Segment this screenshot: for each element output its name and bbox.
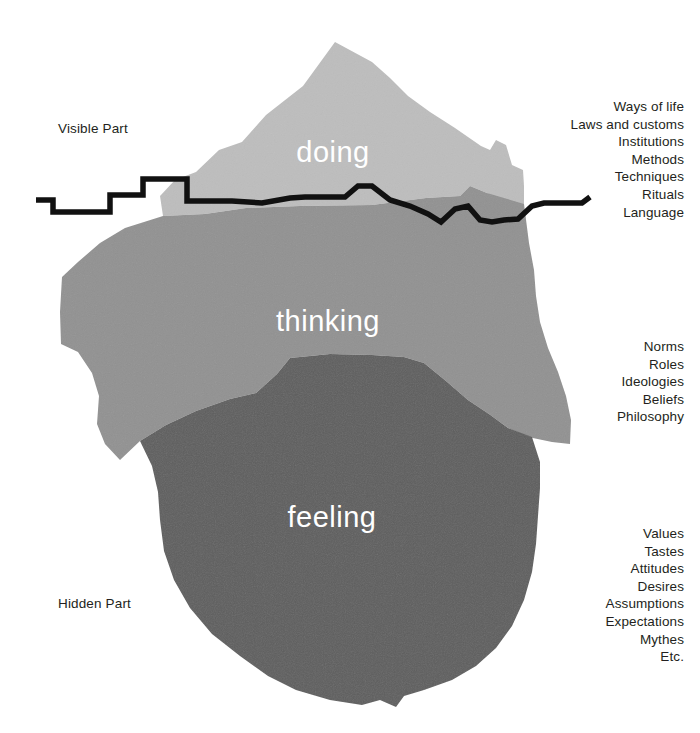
term-item: Roles: [617, 356, 684, 374]
layer-label-thinking: thinking: [276, 305, 380, 337]
term-item: Ways of life: [571, 98, 684, 116]
iceberg-diagram: doing thinking feeling Visible Part Hidd…: [0, 0, 700, 733]
term-item: Tastes: [606, 543, 685, 561]
term-item: Ideologies: [617, 373, 684, 391]
term-item: Desires: [606, 578, 685, 596]
term-item: Norms: [617, 338, 684, 356]
term-item: Philosophy: [617, 408, 684, 426]
term-item: Values: [606, 525, 685, 543]
term-item: Expectations: [606, 613, 685, 631]
term-item: Etc.: [606, 648, 685, 666]
term-item: Attitudes: [606, 560, 685, 578]
visible-part-label: Visible Part: [58, 121, 128, 136]
term-item: Language: [571, 204, 684, 222]
layer-label-doing: doing: [296, 136, 369, 168]
term-item: Assumptions: [606, 595, 685, 613]
term-item: Rituals: [571, 186, 684, 204]
term-item: Institutions: [571, 133, 684, 151]
term-item: Methods: [571, 151, 684, 169]
term-list-doing: Ways of life Laws and customs Institutio…: [571, 98, 684, 221]
layer-label-feeling: feeling: [288, 501, 377, 533]
term-item: Laws and customs: [571, 116, 684, 134]
term-item: Mythes: [606, 631, 685, 649]
hidden-part-label: Hidden Part: [58, 596, 131, 611]
term-list-feeling: Values Tastes Attitudes Desires Assumpti…: [606, 525, 685, 666]
term-item: Beliefs: [617, 391, 684, 409]
term-list-thinking: Norms Roles Ideologies Beliefs Philosoph…: [617, 338, 684, 426]
term-item: Techniques: [571, 168, 684, 186]
